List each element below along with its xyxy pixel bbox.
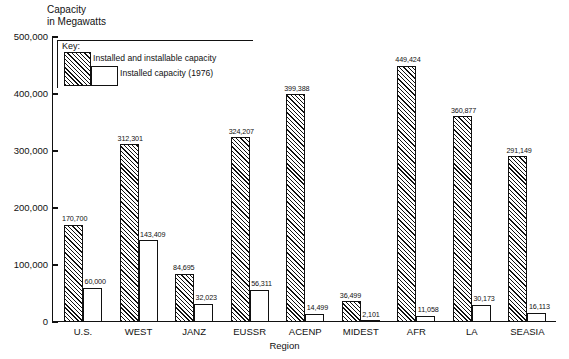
legend-swatch-hatched <box>64 52 91 86</box>
x-category-label: MIDEST <box>334 326 388 337</box>
bar-value-label: 399,388 <box>284 84 309 93</box>
y-tick-label: 100,000 <box>2 259 48 270</box>
chart-container: Capacity in Megawatts 0100,000200,000300… <box>0 0 569 359</box>
y-tick-label: 0 <box>2 316 48 327</box>
bar-value-label: 30,173 <box>473 294 494 303</box>
bar-group: 36,4992,101 <box>334 37 390 322</box>
legend-label-installed-installable: Installed and installable capacity <box>93 53 216 63</box>
legend-swatch-open <box>91 66 118 86</box>
y-tick-label: 500,000 <box>2 31 48 42</box>
bar-value-label: 11,058 <box>418 305 439 314</box>
x-category-label: JANZ <box>167 326 221 337</box>
bar-value-label: 84,695 <box>173 263 194 272</box>
bar-installed[interactable] <box>83 288 102 322</box>
bar-value-label: 56,311 <box>251 279 272 288</box>
legend-label-installed: Installed capacity (1976) <box>120 68 213 78</box>
bar-installed-installable[interactable] <box>397 66 416 322</box>
bar-installed-installable[interactable] <box>286 94 305 322</box>
bar-value-label: 360,877 <box>451 106 476 115</box>
bar-value-label: 60,000 <box>85 277 106 286</box>
bar-value-label: 32,023 <box>196 293 217 302</box>
bar-group: 360,87730,173 <box>445 37 501 322</box>
bar-value-label: 14,499 <box>307 303 328 312</box>
bar-value-label: 312,301 <box>118 134 143 143</box>
bar-value-label: 291,149 <box>506 146 531 155</box>
bar-value-label: 324,207 <box>229 127 254 136</box>
bar-installed[interactable] <box>250 290 269 322</box>
bar-group: 291,14916,113 <box>500 37 556 322</box>
bar-installed-installable[interactable] <box>453 116 472 322</box>
bar-installed-installable[interactable] <box>64 225 83 322</box>
bar-installed-installable[interactable] <box>231 137 250 322</box>
bar-installed[interactable] <box>305 314 324 322</box>
bar-installed[interactable] <box>194 304 213 322</box>
bar-installed[interactable] <box>472 305 491 322</box>
x-category-label: U.S. <box>56 326 110 337</box>
bar-group: 449,42411,058 <box>389 37 445 322</box>
bar-value-label: 143,409 <box>140 230 165 239</box>
bar-installed[interactable] <box>139 240 158 322</box>
y-tick-label: 200,000 <box>2 202 48 213</box>
bar-installed-installable[interactable] <box>508 156 527 322</box>
bar-installed-installable[interactable] <box>175 274 194 322</box>
x-category-label: ACENP <box>278 326 332 337</box>
bar-value-label: 2,101 <box>362 310 380 319</box>
y-tick-label: 400,000 <box>2 88 48 99</box>
x-axis-title: Region <box>0 340 569 351</box>
bar-installed-installable[interactable] <box>342 301 361 322</box>
x-category-label: EUSSR <box>223 326 277 337</box>
bar-installed[interactable] <box>527 313 546 322</box>
bar-value-label: 36,499 <box>340 291 361 300</box>
x-category-label: WEST <box>112 326 166 337</box>
bar-value-label: 449,424 <box>395 55 420 64</box>
bar-installed[interactable] <box>361 320 380 322</box>
bar-value-label: 170,700 <box>62 214 87 223</box>
bar-installed-installable[interactable] <box>120 144 139 322</box>
bar-group: 399,38814,499 <box>278 37 334 322</box>
y-tick-label: 300,000 <box>2 145 48 156</box>
legend-title: Key: <box>62 41 80 51</box>
x-category-label: SEASIA <box>500 326 554 337</box>
bar-value-label: 16,113 <box>529 302 550 311</box>
x-category-label: LA <box>445 326 499 337</box>
bar-installed[interactable] <box>416 316 435 322</box>
y-axis-title: Capacity in Megawatts <box>47 4 106 27</box>
x-category-label: AFR <box>389 326 443 337</box>
